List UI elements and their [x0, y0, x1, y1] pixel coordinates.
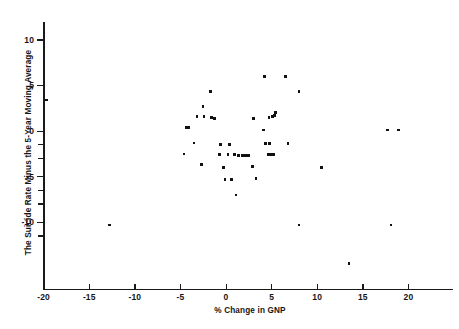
data-point [209, 90, 212, 93]
data-point [230, 178, 233, 181]
data-point [272, 153, 275, 156]
plot-area: 1050-5-10 -20-15-10-505101520 The Suicid… [0, 0, 459, 329]
y-tick [37, 176, 43, 177]
x-axis-line [43, 289, 453, 290]
data-point [248, 154, 251, 157]
data-point [252, 117, 255, 120]
y-tick-minor [38, 158, 43, 159]
data-point [219, 143, 222, 146]
data-point [386, 129, 389, 132]
x-tick-label: 0 [211, 292, 241, 302]
x-axis-title: % Change in GNP [160, 306, 340, 315]
y-tick-minor [38, 144, 43, 145]
data-point [263, 75, 266, 78]
scatter-plot-figure: 1050-5-10 -20-15-10-505101520 The Suicid… [0, 0, 459, 329]
x-tick [271, 284, 272, 290]
data-point [196, 115, 199, 118]
data-point [255, 177, 258, 180]
data-point [222, 166, 225, 169]
y-tick-minor [38, 203, 43, 204]
x-tick [408, 284, 409, 290]
data-point [397, 129, 400, 132]
data-point [233, 153, 236, 156]
data-point [218, 153, 221, 156]
y-tick-minor [38, 235, 43, 236]
data-point [284, 75, 287, 78]
data-point [214, 117, 217, 120]
data-point [264, 142, 267, 145]
data-point [298, 90, 301, 93]
y-tick-minor [38, 190, 43, 191]
x-tick-label: -15 [74, 292, 104, 302]
x-tick [89, 284, 90, 290]
x-tick-label: 10 [302, 292, 332, 302]
x-tick-label: 5 [257, 292, 287, 302]
y-tick [37, 222, 43, 223]
y-tick [37, 85, 43, 86]
data-point [268, 142, 271, 145]
data-point [200, 163, 203, 166]
data-point [183, 153, 186, 156]
y-tick-label: 10 [8, 35, 34, 45]
data-point [227, 153, 230, 156]
x-tick-label: -10 [120, 292, 150, 302]
x-tick-label: 20 [393, 292, 423, 302]
data-point [274, 111, 277, 114]
x-tick-label: -5 [165, 292, 195, 302]
x-tick [43, 284, 44, 290]
data-point [108, 224, 111, 227]
x-tick [317, 284, 318, 290]
data-point [251, 165, 254, 168]
x-tick [226, 284, 227, 290]
y-tick [37, 39, 43, 40]
data-point [224, 178, 227, 181]
x-tick [134, 284, 135, 290]
data-point [237, 154, 240, 157]
x-tick [362, 284, 363, 290]
data-point [268, 116, 271, 119]
data-point [348, 262, 351, 265]
data-point [390, 224, 393, 227]
data-point [287, 142, 290, 145]
data-point [193, 142, 196, 145]
y-axis-title: The Suicide Rate Minus the 5-Year Moving… [24, 48, 33, 258]
x-tick [180, 284, 181, 290]
y-axis-line [43, 22, 45, 290]
data-point [235, 194, 238, 197]
data-point [45, 99, 48, 102]
data-point [273, 114, 276, 117]
y-tick [37, 131, 43, 132]
data-point [228, 143, 231, 146]
data-point [203, 115, 206, 118]
data-point [298, 224, 301, 227]
data-point [187, 126, 190, 129]
x-tick-label: -20 [29, 292, 59, 302]
data-point [262, 129, 265, 132]
x-tick-label: 15 [348, 292, 378, 302]
data-point [320, 166, 323, 169]
data-point [202, 105, 205, 108]
